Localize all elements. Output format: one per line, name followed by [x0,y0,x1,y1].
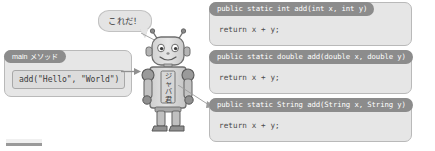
java-kun-robot: ジ ャ バ 君 [133,27,205,133]
code-block-body: return x + y; [219,121,280,131]
code-block: public static double add(double x, doubl… [209,50,412,94]
code-block: public static String add(String x, Strin… [209,98,412,142]
code-block-signature: public static String add(String x, Strin… [209,98,413,112]
main-method-panel: main メソッド add("Hello", "World") [4,50,132,97]
bottom-rule [6,143,42,146]
main-method-header: main メソッド [4,50,66,63]
main-method-call-box: add("Hello", "World") [12,70,125,89]
code-block: public static int add(int x, int y) retu… [209,2,412,46]
code-block-signature: public static int add(int x, int y) [209,2,374,16]
main-method-call-text: add("Hello", "World") [19,71,119,88]
code-block-body: return x + y; [219,25,280,35]
robot-chest-char-3: 君 [165,95,172,104]
code-block-signature: public static double add(double x, doubl… [209,50,413,64]
code-block-body: return x + y; [219,73,280,83]
